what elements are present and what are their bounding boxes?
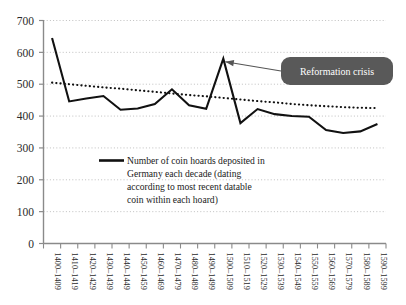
x-axis-tick-label: 1510–1519 <box>242 253 251 290</box>
x-axis-tick-label: 1500–1509 <box>225 253 234 290</box>
x-axis-tick-label: 1480–1489 <box>190 253 199 290</box>
x-axis-tick-marks <box>44 244 387 249</box>
x-axis-tick-label: 1410–1419 <box>70 253 79 290</box>
legend-line-2: Germany each decade (dating <box>127 168 241 180</box>
chart-legend: Number of coin hoards deposited in Germa… <box>99 155 265 206</box>
y-axis-tick-label: 700 <box>17 15 35 27</box>
annotation-reformation-crisis: Reformation crisis <box>225 57 393 85</box>
y-axis-tick-label: 100 <box>17 206 35 218</box>
legend-line-4: coin within each hoard) <box>127 194 218 206</box>
x-axis-tick-label: 1450–1459 <box>139 253 148 290</box>
y-axis-tick-labels: 0100200300400500600700 <box>17 15 35 250</box>
x-axis-tick-label: 1590–1599 <box>379 253 388 290</box>
y-axis-tick-label: 0 <box>28 238 34 250</box>
x-axis-tick-label: 1400–1409 <box>53 253 62 290</box>
x-axis-tick-label: 1440–1449 <box>122 253 131 290</box>
x-axis-tick-label: 1460–1469 <box>156 253 165 290</box>
chart-container: 0100200300400500600700 1400–14091410–141… <box>0 0 406 305</box>
x-axis-tick-label: 1550–1559 <box>310 253 319 290</box>
x-axis-tick-label: 1560–1569 <box>327 253 336 290</box>
coin-hoards-line-chart: 0100200300400500600700 1400–14091410–141… <box>0 0 406 305</box>
x-axis-tick-label: 1420–1429 <box>88 253 97 290</box>
x-axis-tick-label: 1570–1579 <box>344 253 353 290</box>
annotation-arrow-head <box>225 60 234 66</box>
y-axis-tick-label: 500 <box>17 78 35 90</box>
legend-line-1: Number of coin hoards deposited in <box>127 155 265 166</box>
x-axis-tick-label: 1430–1439 <box>105 253 114 290</box>
x-axis-tick-labels: 1400–14091410–14191420–14291430–14391440… <box>53 253 387 290</box>
annotation-label: Reformation crisis <box>300 66 374 77</box>
x-axis-tick-label: 1470–1479 <box>173 253 182 290</box>
y-axis-tick-label: 200 <box>17 174 35 186</box>
x-axis-tick-label: 1490–1499 <box>207 253 216 290</box>
x-axis-tick-label: 1540–1549 <box>293 253 302 290</box>
x-axis-tick-label: 1520–1529 <box>259 253 268 290</box>
x-axis-tick-label: 1580–1589 <box>362 253 371 290</box>
x-axis-tick-label: 1530–1539 <box>276 253 285 290</box>
legend-line-3: according to most recent datable <box>127 181 252 192</box>
y-axis-tick-label: 300 <box>17 142 35 154</box>
y-axis-tick-label: 600 <box>17 47 35 59</box>
y-axis-tick-label: 400 <box>17 110 35 122</box>
